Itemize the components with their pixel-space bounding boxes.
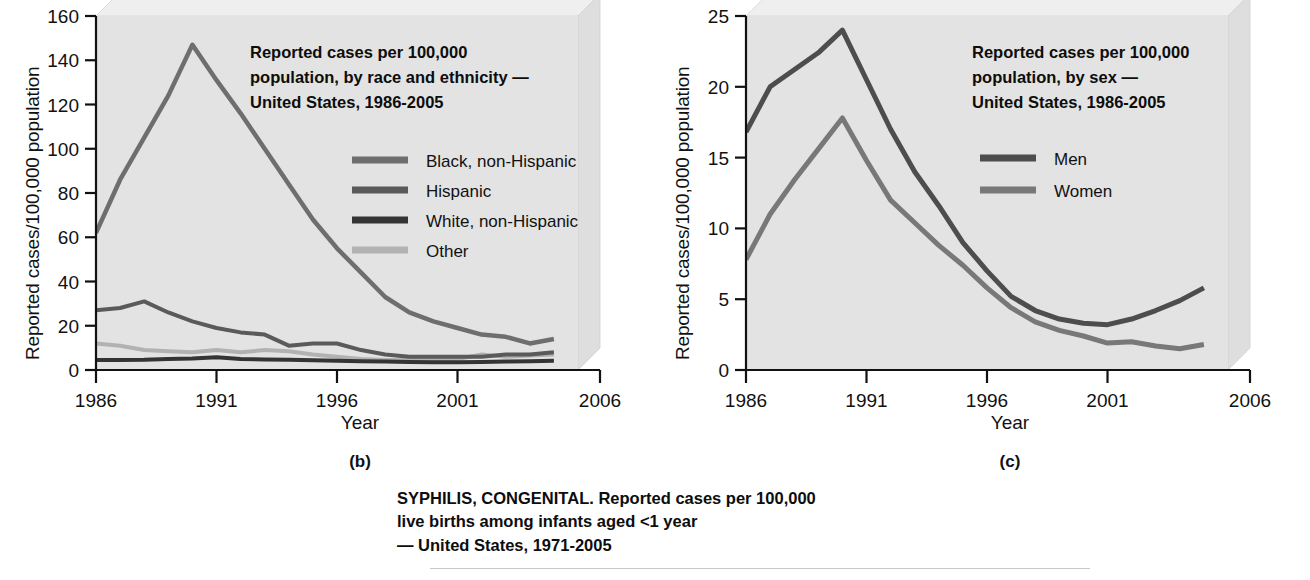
chart-title-line: United States, 1986-2005 <box>972 93 1166 111</box>
x-tick-label: 1991 <box>195 390 237 411</box>
x-tick-label: 2006 <box>1229 390 1271 411</box>
y-tick-label: 160 <box>47 6 79 27</box>
x-tick-label: 2001 <box>1086 390 1128 411</box>
y-axis-label-b: Reported cases/100,000 population <box>22 67 44 360</box>
plot-top-face <box>96 0 600 16</box>
footnote-line-3: — United States, 1971-2005 <box>397 534 957 557</box>
x-axis-label-c: Year <box>950 412 1070 434</box>
x-tick-label: 1991 <box>845 390 887 411</box>
legend-label-women: Women <box>1054 182 1112 201</box>
legend-label-white-non-hispanic: White, non-Hispanic <box>426 212 579 231</box>
y-tick-label: 20 <box>708 77 729 98</box>
y-tick-label: 100 <box>47 139 79 160</box>
chart-title-line: Reported cases per 100,000 <box>972 43 1189 61</box>
chart-title-line: population, by sex — <box>972 68 1138 86</box>
plot-right-face <box>578 0 600 370</box>
legend-label-hispanic: Hispanic <box>426 182 492 201</box>
y-tick-label: 10 <box>708 218 729 239</box>
y-tick-label: 140 <box>47 50 79 71</box>
legend-label-black-non-hispanic: Black, non-Hispanic <box>426 152 577 171</box>
y-tick-label: 0 <box>718 360 729 381</box>
chart-title-line: Reported cases per 100,000 <box>250 43 467 61</box>
footnote-line-2: live births among infants aged <1 year <box>397 510 957 533</box>
y-tick-label: 120 <box>47 95 79 116</box>
plot-right-face <box>1228 0 1250 370</box>
x-tick-label: 1986 <box>725 390 767 411</box>
legend-label-other: Other <box>426 242 469 261</box>
x-axis-label-b: Year <box>300 412 420 434</box>
footnote-line-1: SYPHILIS, CONGENITAL. Reported cases per… <box>397 487 957 510</box>
plot-top-face <box>746 0 1250 16</box>
chart-title-line: population, by race and ethnicity — <box>250 68 529 86</box>
x-tick-label: 1996 <box>316 390 358 411</box>
y-tick-label: 80 <box>58 183 79 204</box>
footnote-divider <box>430 568 1090 569</box>
panel-letter-c: (c) <box>950 452 1070 472</box>
x-tick-label: 1996 <box>966 390 1008 411</box>
legend-label-men: Men <box>1054 150 1087 169</box>
x-tick-label: 2001 <box>436 390 478 411</box>
y-axis-label-c: Reported cases/100,000 population <box>672 67 694 360</box>
panel-letter-b: (b) <box>300 452 420 472</box>
y-tick-label: 40 <box>58 272 79 293</box>
x-tick-label: 1986 <box>75 390 117 411</box>
figure-footnote: SYPHILIS, CONGENITAL. Reported cases per… <box>397 487 957 557</box>
figure-container: 0204060801001201401601986199119962001200… <box>0 0 1310 580</box>
chart-title-line: United States, 1986-2005 <box>250 93 444 111</box>
y-tick-label: 20 <box>58 316 79 337</box>
y-tick-label: 25 <box>708 6 729 27</box>
y-tick-label: 0 <box>68 360 79 381</box>
x-tick-label: 2006 <box>579 390 621 411</box>
y-tick-label: 60 <box>58 227 79 248</box>
y-tick-label: 15 <box>708 148 729 169</box>
y-tick-label: 5 <box>718 289 729 310</box>
